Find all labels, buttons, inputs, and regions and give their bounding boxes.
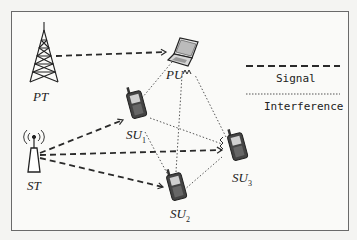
signal-edges <box>40 52 222 187</box>
edge-su1-su3 <box>150 118 222 144</box>
edge-st-su3 <box>40 150 222 155</box>
cell-tower-icon <box>30 22 58 82</box>
edge-st-su2 <box>40 158 163 187</box>
edge-su2-su3 <box>184 157 222 190</box>
legend-signal-label: Signal <box>276 72 316 85</box>
legend-interference-label: Interference <box>264 100 343 113</box>
label-pu: PU <box>166 67 183 83</box>
edge-su2-pu <box>176 75 182 172</box>
edge-su3-pu <box>195 75 226 137</box>
label-su2: SU2 <box>170 206 190 224</box>
antenna-icon <box>24 130 45 172</box>
label-st: ST <box>27 178 41 194</box>
edge-pt-pu <box>56 52 166 56</box>
label-su3: SU3 <box>232 170 252 188</box>
pu-wave-icon <box>183 70 191 74</box>
mobile-phone-icon <box>124 84 147 119</box>
label-su1: SU1 <box>126 127 146 145</box>
interference-edges <box>142 62 226 190</box>
network-diagram <box>0 0 357 240</box>
edge-su1-su2 <box>145 132 168 175</box>
label-pt: PT <box>33 89 48 105</box>
mobile-phone-icon <box>225 126 248 161</box>
laptop-icon <box>168 38 198 66</box>
edge-st-su1 <box>40 120 123 153</box>
